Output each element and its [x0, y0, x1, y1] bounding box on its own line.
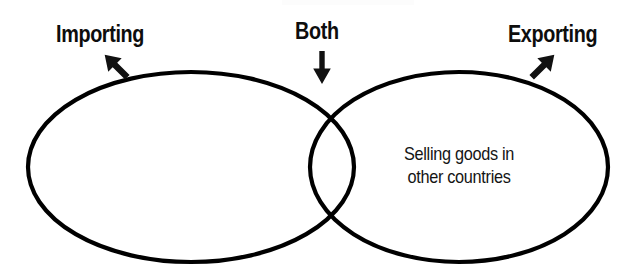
ellipse-importing	[28, 72, 354, 262]
region-text-line-1: Selling goods in	[389, 142, 530, 165]
region-text-line-2: other countries	[389, 165, 530, 188]
label-both: Both	[295, 20, 339, 43]
venn-diagram-canvas: Importing Both Exporting Selling goods i…	[0, 0, 630, 279]
region-text-exporting: Selling goods in other countries	[379, 142, 539, 188]
exporting-arrow-icon	[525, 48, 561, 84]
label-importing: Importing	[56, 23, 144, 46]
label-exporting: Exporting	[508, 23, 597, 46]
both-arrow-icon	[313, 51, 331, 84]
